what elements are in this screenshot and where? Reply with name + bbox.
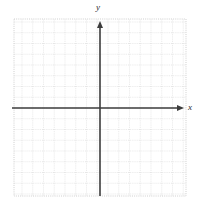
x-axis-label: x: [188, 103, 192, 112]
coordinate-grid-svg: [0, 0, 202, 205]
y-axis-label: y: [96, 3, 100, 12]
coordinate-plane-figure: y x: [0, 0, 202, 205]
